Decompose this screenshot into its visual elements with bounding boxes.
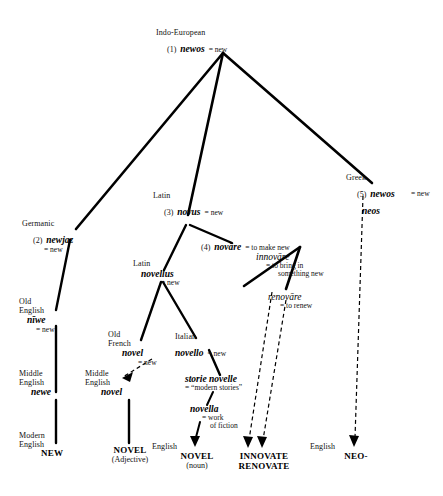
node-greek-form1: newos — [370, 189, 394, 199]
node-old-english-niwe-lang2: English — [19, 307, 55, 316]
node-middle-english-newe-form: newe — [19, 387, 51, 397]
node-latin-novus-number: (3) — [164, 208, 173, 217]
node-greek-form-line2: neos — [346, 200, 395, 217]
node-italian-novello-form: novello — [175, 348, 204, 358]
arrowhead-novel-noun — [190, 436, 200, 447]
node-indo-european-number: (1) — [167, 45, 176, 54]
node-germanic-form: newjaz — [46, 235, 73, 245]
node-middle-english-novel-form: novel — [85, 387, 122, 397]
node-germanic: Germanic (2) newjaz = new — [22, 220, 73, 254]
node-italian-novello-form-line: novello = new — [175, 342, 226, 359]
node-italian-novello-gloss: = new — [208, 349, 227, 358]
node-germanic-gloss: = new — [22, 246, 73, 254]
node-novel-noun-lang: English — [152, 443, 177, 452]
node-novel-adjective-sub: (Adjective) — [96, 456, 164, 465]
edge-ie-to-latin — [188, 53, 223, 215]
node-old-french-novel-gloss: = new — [108, 359, 157, 367]
node-renovate-term: RENOVATE — [228, 462, 300, 472]
arrowhead-neo — [349, 435, 359, 447]
node-storie-novelle: storie novelle = “modern stories” — [185, 374, 242, 392]
arrowhead-innovate — [243, 436, 253, 448]
node-germanic-form-line: (2) newjaz — [22, 229, 73, 246]
node-latin-novus-form-line: (3) novus = new — [153, 201, 223, 218]
node-renovare: renovāre = to renew — [268, 292, 312, 310]
node-old-english-niwe-gloss: = new — [19, 326, 55, 334]
node-germanic-lang: Germanic — [22, 220, 73, 229]
node-innovare-gloss2: something new — [256, 270, 324, 278]
node-latin-novare: (4) novāre = to make new — [201, 236, 290, 253]
node-latin-novellus-gloss: = new — [133, 279, 180, 287]
node-latin-novus: Latin (3) novus = new — [153, 192, 223, 218]
node-indo-european-lang: Indo-European — [156, 29, 227, 38]
node-latin-novare-number: (4) — [201, 243, 210, 252]
node-novel-noun: NOVEL (noun) — [168, 452, 226, 470]
node-modern-english-new-term: NEW — [19, 449, 63, 459]
edge-greek-to-neo-dashed — [355, 196, 363, 438]
node-old-french-novel-lang2: French — [108, 340, 157, 349]
node-neo-term: NEO- — [332, 452, 380, 462]
node-greek-gloss: = new — [411, 190, 430, 198]
edge-innovare-to-innovate-dashed — [249, 292, 272, 440]
node-greek-form2: neos — [362, 206, 380, 216]
node-novella-gloss2: of fiction — [190, 422, 238, 430]
node-greek: Greek (5) newos neos — [346, 174, 395, 217]
node-novel-noun-sub: (noun) — [168, 462, 226, 471]
node-latin-novus-gloss: = new — [205, 208, 224, 217]
node-italian-novello-lang: Italian — [175, 333, 226, 342]
node-innovate-renovate: INNOVATE RENOVATE — [228, 452, 300, 471]
node-indo-european: Indo-European (1) newos = new — [156, 29, 227, 55]
node-greek-lang: Greek — [346, 174, 395, 183]
node-middle-english-newe-lang2: English — [19, 379, 51, 388]
edge-novellus-to-italian — [163, 282, 196, 338]
node-old-french-novel-form: novel — [108, 348, 157, 358]
node-greek-form-line1: (5) newos — [346, 183, 395, 200]
node-indo-european-form: newos — [180, 44, 204, 54]
node-old-english-niwe: Old English nīwe = new — [19, 298, 55, 334]
node-germanic-number: (2) — [33, 236, 42, 245]
node-latin-novellus: Latin novellus = new — [133, 260, 180, 287]
arrowhead-middleenglish-novel — [122, 372, 133, 382]
node-novella: novella = work of fiction — [190, 404, 238, 430]
node-latin-novare-form: novāre — [214, 242, 241, 252]
node-storie-novelle-gloss: = “modern stories” — [185, 384, 242, 392]
etymology-tree-diagram: Indo-European (1) newos = new Germanic (… — [0, 0, 443, 496]
node-latin-novus-lang: Latin — [153, 192, 223, 201]
arrowhead-renovate — [257, 436, 267, 448]
node-old-english-niwe-form: nīwe — [19, 315, 55, 325]
node-modern-english-new: Modern English NEW — [19, 432, 63, 459]
node-middle-english-novel-lang2: English — [85, 379, 122, 388]
edge-ie-to-greek — [223, 53, 372, 183]
node-latin-novare-gloss: = to make new — [245, 243, 289, 252]
node-indo-european-gloss: = new — [209, 45, 228, 54]
node-neo-lang: English — [310, 443, 335, 452]
node-middle-english-novel: Middle English novel — [85, 370, 122, 398]
edge-renovare-to-renovate-dashed — [263, 300, 286, 440]
node-latin-novus-form: novus — [177, 207, 200, 217]
node-old-french-novel: Old French novel = new — [108, 331, 157, 367]
node-neo: NEO- — [332, 452, 380, 462]
node-latin-novellus-lang: Latin — [133, 260, 180, 269]
node-innovare: innovāre = to bring in something new — [256, 252, 324, 278]
node-indo-european-form-line: (1) newos = new — [156, 38, 227, 55]
node-renovare-gloss: = to renew — [268, 302, 312, 310]
node-greek-number: (5) — [357, 190, 366, 199]
node-italian-novello: Italian novello = new — [175, 333, 226, 359]
node-middle-english-newe: Middle English newe — [19, 370, 51, 398]
